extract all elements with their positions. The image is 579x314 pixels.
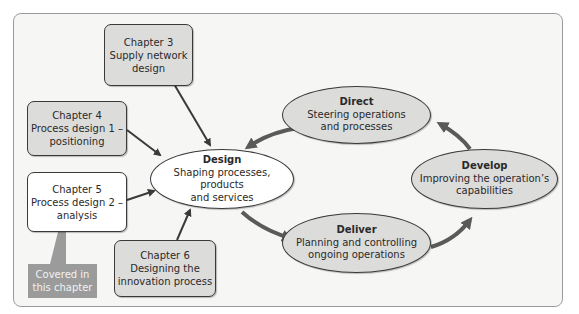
activity-line: and services — [190, 192, 253, 205]
callout-line: Covered in — [28, 268, 97, 281]
activity-line: and processes — [321, 121, 393, 134]
callout-pointer — [50, 232, 66, 264]
activity-line: Steering operations — [307, 109, 406, 122]
activity-line: Shaping processes, products — [151, 167, 293, 192]
chapter-line: Designing the — [130, 262, 200, 275]
chapter-6-box: Chapter 6 Designing the innovation proce… — [114, 240, 216, 297]
chapter-line: positioning — [49, 135, 104, 148]
covered-in-this-chapter-callout: Covered in this chapter — [28, 264, 97, 298]
chapter-line: analysis — [57, 209, 98, 222]
activity-title: Deliver — [336, 224, 376, 237]
chapter-title: Chapter 6 — [140, 249, 190, 262]
chapter-title: Chapter 3 — [124, 36, 174, 49]
activity-title: Direct — [339, 96, 373, 109]
deliver-ellipse: Deliver Planning and controlling ongoing… — [282, 213, 431, 273]
activity-title: Develop — [462, 160, 508, 173]
chapter-line: Process design 1 – — [31, 122, 123, 135]
chapter-3-box: Chapter 3 Supply network design — [104, 24, 193, 86]
chapter-title: Chapter 4 — [52, 109, 102, 122]
chapter-5-box: Chapter 5 Process design 2 – analysis — [27, 172, 127, 232]
chapter-line: Supply network — [110, 49, 188, 62]
callout-line: this chapter — [28, 281, 97, 294]
develop-ellipse: Develop Improving the operation’s capabi… — [411, 149, 558, 209]
chapter-line: design — [132, 62, 165, 75]
activity-line: Planning and controlling — [296, 237, 417, 250]
activity-title: Design — [203, 154, 242, 167]
activity-line: Improving the operation’s — [420, 173, 550, 186]
activity-line: capabilities — [456, 185, 513, 198]
activity-line: ongoing operations — [308, 249, 405, 262]
chapter-title: Chapter 5 — [52, 183, 102, 196]
chapter-line: innovation process — [118, 275, 212, 288]
direct-ellipse: Direct Steering operations and processes — [282, 86, 431, 144]
chapter-4-box: Chapter 4 Process design 1 – positioning — [27, 101, 127, 156]
design-ellipse: Design Shaping processes, products and s… — [150, 149, 294, 209]
chapter-line: Process design 2 – — [31, 196, 123, 209]
